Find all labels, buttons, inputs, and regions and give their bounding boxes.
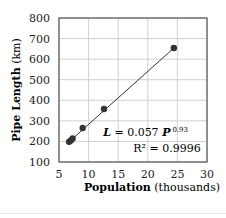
y-tick-label: 200 bbox=[29, 135, 50, 148]
y-tick-label: 400 bbox=[29, 94, 50, 107]
x-tick-label: 5 bbox=[56, 168, 63, 181]
y-tick-label: 500 bbox=[29, 74, 50, 87]
x-tick-label: 25 bbox=[170, 168, 184, 181]
data-point bbox=[79, 125, 85, 131]
x-axis-ticks: 51015202530 bbox=[56, 168, 215, 181]
r-squared-label: R² = 0.9996 bbox=[133, 142, 200, 155]
x-axis-label: Population (thousands) bbox=[84, 181, 220, 194]
x-tick-label: 15 bbox=[111, 168, 125, 181]
data-point bbox=[69, 135, 75, 141]
x-tick-label: 10 bbox=[82, 168, 96, 181]
plot-frame bbox=[59, 18, 207, 162]
y-tick-label: 600 bbox=[29, 53, 50, 66]
data-point bbox=[101, 106, 107, 112]
y-tick-label: 100 bbox=[29, 156, 50, 169]
gridlines bbox=[59, 18, 207, 162]
x-tick-label: 20 bbox=[141, 168, 155, 181]
x-tick-label: 30 bbox=[200, 168, 214, 181]
y-axis-ticks: 100200300400500600700800 bbox=[29, 12, 50, 169]
y-tick-label: 800 bbox=[29, 12, 50, 25]
y-axis-label: Pipe Length (km) bbox=[10, 38, 23, 142]
y-tick-label: 300 bbox=[29, 115, 50, 128]
chart: 51015202530 100200300400500600700800 L =… bbox=[0, 0, 226, 218]
data-point bbox=[171, 45, 177, 51]
fit-equation: L = 0.057 P0.93 bbox=[102, 126, 188, 139]
y-tick-label: 700 bbox=[29, 33, 50, 46]
divider bbox=[0, 213, 226, 214]
